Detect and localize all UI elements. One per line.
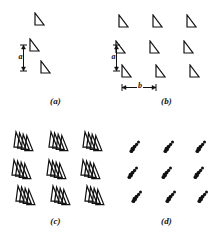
- panel-b-caption: (b): [111, 96, 222, 106]
- dot-streak-marker: [197, 190, 209, 204]
- panel-d-stage: [111, 122, 222, 222]
- triangle-marker: [185, 14, 198, 29]
- triangle-marker: [39, 60, 52, 75]
- triangle-marker: [28, 38, 41, 53]
- triangle-marker: [182, 40, 195, 55]
- dot-streak-marker: [165, 190, 177, 204]
- spacing-b-label: b: [137, 82, 143, 90]
- figure-root: a (a) ab (b) (c) (d): [0, 0, 222, 244]
- triangle-cluster-marker: [46, 158, 70, 180]
- triangle-marker: [117, 14, 130, 29]
- panel-a-caption: (a): [0, 96, 111, 106]
- spacing-a-label: a: [111, 53, 116, 61]
- dot-streak-marker: [193, 166, 205, 180]
- triangle-marker: [151, 14, 164, 29]
- dot-streak-marker: [129, 140, 141, 154]
- panel-b-stage: ab: [111, 0, 222, 100]
- triangle-marker: [154, 64, 167, 79]
- triangle-marker: [148, 40, 161, 55]
- triangle-cluster-marker: [80, 158, 104, 180]
- dot-streak-marker: [131, 190, 143, 204]
- triangle-marker: [120, 64, 133, 79]
- triangle-cluster-marker: [50, 184, 74, 206]
- triangle-marker: [188, 64, 201, 79]
- dot-streak-marker: [195, 140, 207, 154]
- spacing-a-label: a: [18, 53, 23, 61]
- panel-c-stage: [0, 122, 111, 222]
- panel-d-caption: (d): [111, 216, 222, 226]
- panel-d: (d): [111, 122, 222, 244]
- panel-a-stage: a: [0, 0, 111, 100]
- dot-streak-marker: [163, 140, 175, 154]
- panel-c-caption: (c): [0, 216, 111, 226]
- triangle-cluster-marker: [48, 130, 72, 152]
- panel-b: ab (b): [111, 0, 222, 122]
- dot-streak-marker: [161, 166, 173, 180]
- panel-a: a (a): [0, 0, 111, 122]
- dot-streak-marker: [127, 166, 139, 180]
- triangle-cluster-marker: [82, 130, 106, 152]
- triangle-cluster-marker: [15, 184, 39, 206]
- triangle-marker: [33, 12, 46, 27]
- panel-c: (c): [0, 122, 111, 244]
- triangle-cluster-marker: [84, 184, 108, 206]
- triangle-cluster-marker: [13, 130, 37, 152]
- triangle-cluster-marker: [11, 158, 35, 180]
